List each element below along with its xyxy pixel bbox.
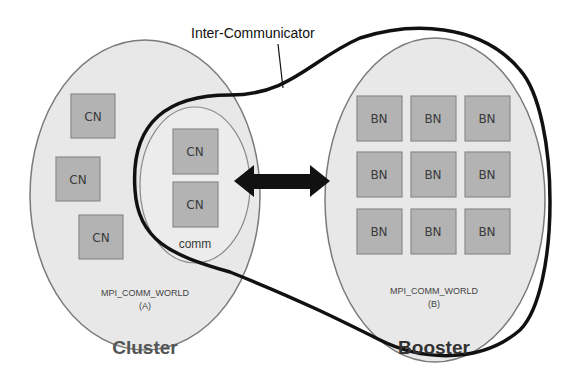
booster-node: BN — [411, 152, 456, 197]
booster-node: BN — [465, 152, 510, 197]
diagram-canvas: Inter-Communicator CN CN CN CN CN comm M… — [0, 0, 582, 379]
svg-text:BN: BN — [478, 112, 495, 126]
svg-text:CN: CN — [186, 145, 203, 159]
booster-world-label: MPI_COMM_WORLD — [390, 286, 479, 296]
intercommunicator-pointer — [278, 44, 283, 88]
svg-text:BN: BN — [424, 168, 441, 182]
svg-text:CN: CN — [84, 110, 101, 124]
cluster-world-sub: (A) — [139, 301, 151, 311]
booster-node: BN — [465, 209, 510, 254]
cluster-node: CN — [79, 215, 123, 259]
booster-node: BN — [357, 152, 402, 197]
cluster-node: CN — [71, 94, 115, 138]
cluster-title: Cluster — [112, 337, 178, 358]
svg-text:CN: CN — [69, 173, 86, 187]
booster-world-ellipse — [325, 38, 545, 362]
svg-text:BN: BN — [478, 168, 495, 182]
svg-text:BN: BN — [370, 168, 387, 182]
cluster-world-label: MPI_COMM_WORLD — [101, 288, 190, 298]
booster-node: BN — [465, 96, 510, 141]
comm-node: CN — [173, 182, 218, 227]
cluster-node: CN — [56, 157, 100, 201]
svg-text:CN: CN — [92, 231, 109, 245]
booster-node: BN — [411, 96, 456, 141]
svg-text:BN: BN — [370, 225, 387, 239]
intercommunicator-label: Inter-Communicator — [191, 25, 315, 41]
comm-label: comm — [179, 237, 212, 251]
booster-node: BN — [357, 96, 402, 141]
svg-text:BN: BN — [370, 112, 387, 126]
svg-text:BN: BN — [424, 225, 441, 239]
booster-world-sub: (B) — [428, 299, 440, 309]
booster-title: Booster — [398, 337, 470, 358]
booster-node: BN — [357, 209, 402, 254]
svg-text:BN: BN — [478, 225, 495, 239]
comm-node: CN — [173, 129, 218, 174]
svg-text:BN: BN — [424, 112, 441, 126]
bidirectional-arrow-icon — [234, 165, 330, 197]
booster-node: BN — [411, 209, 456, 254]
svg-text:CN: CN — [186, 198, 203, 212]
